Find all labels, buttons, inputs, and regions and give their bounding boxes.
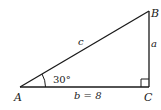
vertex-label-B: B bbox=[150, 7, 159, 20]
right-triangle-diagram: A B C a c b = 8 30° bbox=[0, 0, 161, 110]
side-c-hypotenuse bbox=[20, 11, 149, 87]
vertex-label-A: A bbox=[13, 91, 22, 104]
angle-label-A: 30° bbox=[53, 74, 71, 85]
side-label-b: b = 8 bbox=[74, 90, 102, 101]
vertex-label-C: C bbox=[144, 91, 153, 104]
side-label-c: c bbox=[78, 36, 84, 47]
right-angle-marker bbox=[141, 79, 149, 87]
side-label-a: a bbox=[151, 38, 157, 49]
angle-arc-A bbox=[42, 74, 46, 87]
